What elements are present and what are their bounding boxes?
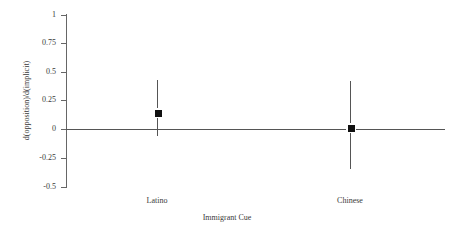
chart-figure: 1 0.75 0.5 0.25 0 -0.25 -0.5 d(oppositio… xyxy=(0,0,454,232)
x-tick-label-chinese: Chinese xyxy=(337,196,363,205)
zero-reference-line xyxy=(66,129,445,130)
y-tick-label-neg025: -0.25 xyxy=(39,154,56,162)
y-tick-mark xyxy=(61,43,66,44)
data-point-latino xyxy=(154,109,163,118)
y-tick-mark xyxy=(61,158,66,159)
y-tick-label-05: 0.5 xyxy=(46,68,56,76)
x-axis-title: Immigrant Cue xyxy=(0,213,454,222)
y-axis-line xyxy=(66,14,67,188)
data-point-chinese xyxy=(347,124,356,133)
x-tick-label-latino: Latino xyxy=(147,196,168,205)
y-tick-label-1: 1 xyxy=(52,11,56,19)
y-tick-mark xyxy=(61,72,66,73)
y-tick-label-025: 0.25 xyxy=(42,96,56,104)
y-tick-mark xyxy=(61,100,66,101)
y-tick-label-075: 0.75 xyxy=(42,39,56,47)
y-tick-label-0: 0 xyxy=(52,125,56,133)
y-tick-mark xyxy=(61,187,66,188)
y-axis-title: d(opposition)/d(implicit) xyxy=(22,41,31,161)
y-tick-label-neg05: -0.5 xyxy=(43,183,56,191)
y-tick-mark xyxy=(61,15,66,16)
